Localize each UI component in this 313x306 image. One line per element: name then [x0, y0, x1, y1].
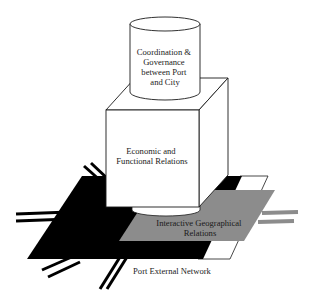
road-bottom-icon	[100, 257, 127, 289]
coordination-governance-cylinder: Coordination & Governance between Port a…	[130, 17, 200, 100]
port-city-relations-diagram: Interactive Geographical Relations Econo…	[0, 0, 313, 306]
economic-label: Economic and Functional Relations	[116, 146, 188, 166]
road-right-icon	[258, 212, 298, 222]
network-label: Port External Network	[133, 266, 212, 276]
road-bottom-left-icon	[42, 256, 80, 277]
cylinder-top	[130, 17, 200, 31]
